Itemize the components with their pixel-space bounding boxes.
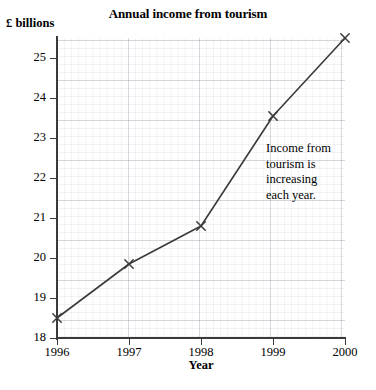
data-point-1999	[269, 112, 277, 120]
note-line-4: each year.	[266, 188, 350, 204]
x-axis-title: Year	[57, 358, 345, 373]
note-line-3: increasing	[266, 172, 350, 188]
data-point-1998	[197, 222, 205, 230]
data-point-1997	[125, 260, 133, 268]
income-increasing-note: Income from tourism is increasing each y…	[266, 141, 350, 203]
note-line-1: Income from	[266, 141, 350, 157]
note-line-2: tourism is	[266, 157, 350, 173]
tourism-income-line-chart: Annual income from tourism £ billions 18…	[0, 0, 376, 390]
data-point-2000	[341, 34, 349, 42]
data-point-1996	[53, 314, 61, 322]
